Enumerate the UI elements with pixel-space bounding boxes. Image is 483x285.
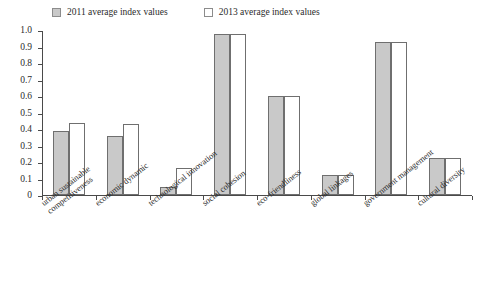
y-tick-label: 0.4 — [20, 125, 32, 135]
x-tick — [203, 196, 204, 200]
legend-label-2013: 2013 average index values — [219, 7, 320, 17]
y-tick-label: 0 — [27, 191, 32, 201]
legend-swatch-2013-icon — [204, 8, 213, 17]
y-tick-label: 0.5 — [20, 109, 32, 119]
x-tick — [42, 196, 43, 200]
y-tick — [38, 163, 42, 164]
y-tick-label: 0.9 — [20, 43, 32, 53]
bar — [160, 187, 176, 195]
y-tick — [38, 147, 42, 148]
y-tick — [38, 97, 42, 98]
plot-area: 1.00.90.80.70.60.50.40.30.20.10 — [42, 31, 472, 196]
bar — [268, 96, 284, 195]
y-tick — [38, 31, 42, 32]
y-tick — [38, 180, 42, 181]
legend-entry-2013: 2013 average index values — [204, 7, 320, 17]
bar — [53, 131, 69, 195]
bar — [445, 158, 461, 195]
y-axis — [42, 31, 43, 196]
bar-chart: 2011 average index values 2013 average i… — [0, 0, 483, 285]
bar — [176, 168, 192, 195]
bar — [214, 34, 230, 195]
bar — [69, 123, 85, 195]
y-tick — [38, 48, 42, 49]
x-tick — [472, 196, 473, 200]
bar — [338, 175, 354, 195]
bar — [322, 175, 338, 195]
y-tick — [38, 114, 42, 115]
y-tick-label: 0.6 — [20, 92, 32, 102]
y-tick-label: 0.7 — [20, 76, 32, 86]
legend-label-2011: 2011 average index values — [67, 7, 168, 17]
y-tick-label: 0.2 — [20, 158, 32, 168]
legend-entry-2011: 2011 average index values — [52, 7, 168, 17]
y-tick — [38, 81, 42, 82]
legend-swatch-2011-icon — [52, 8, 61, 17]
bar — [284, 96, 300, 195]
x-tick — [150, 196, 151, 200]
y-tick-label: 0.8 — [20, 59, 32, 69]
bar — [391, 42, 407, 195]
x-tick — [365, 196, 366, 200]
y-tick — [38, 64, 42, 65]
y-tick-label: 0.3 — [20, 142, 32, 152]
chart-legend: 2011 average index values 2013 average i… — [52, 7, 320, 17]
x-tick — [418, 196, 419, 200]
y-tick-label: 0.1 — [20, 175, 32, 185]
bar — [429, 158, 445, 195]
bar — [123, 124, 139, 195]
x-tick — [257, 196, 258, 200]
x-tick — [311, 196, 312, 200]
bar — [230, 34, 246, 195]
y-tick-label: 1.0 — [20, 26, 32, 36]
y-tick — [38, 130, 42, 131]
x-tick — [96, 196, 97, 200]
bar — [107, 136, 123, 195]
bar — [375, 42, 391, 195]
